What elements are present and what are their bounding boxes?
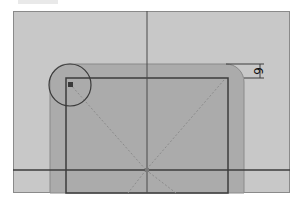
corner-radius-handle[interactable] xyxy=(68,82,73,87)
corner-radius-dimension-label[interactable]: 6 xyxy=(252,67,264,75)
center-point[interactable] xyxy=(145,168,149,172)
top-strip xyxy=(18,0,58,4)
editor-root: 6 xyxy=(0,0,304,207)
rounded-rectangle-shape[interactable] xyxy=(50,64,244,193)
